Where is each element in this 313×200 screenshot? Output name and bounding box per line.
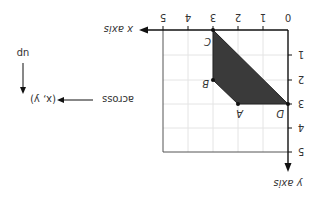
point-c-marker [211,28,215,32]
x-tick-5: 5 [160,12,166,23]
x-tick-2: 2 [235,12,241,23]
legend-up: up [17,48,30,59]
diagram: 0 1 2 3 4 5 x axis 1 2 3 4 5 y axis C B … [0,0,313,200]
up-arrow-icon [20,87,26,94]
y-tick-3: 3 [298,98,304,109]
point-b-label: B [202,78,209,89]
legend-across: across [102,94,134,105]
y-axis-label: y axis [273,178,303,189]
across-arrow-icon [57,97,64,103]
point-c-label: C [204,36,211,47]
x-axis-arrow-icon [139,27,148,34]
point-d-marker [286,102,290,106]
point-a-label: A [236,108,244,119]
quadrilateral-ABCD [213,30,288,104]
x-tick-3: 3 [210,12,216,23]
x-tick-0: 0 [285,12,291,23]
y-axis-arrow-icon [285,163,292,172]
x-tick-4: 4 [185,12,191,23]
y-tick-1: 1 [298,49,304,60]
point-a-marker [236,102,240,106]
y-tick-2: 2 [298,74,304,85]
x-axis-label: x axis [104,24,134,35]
legend-coordinate: (x, y) [30,94,56,105]
point-b-marker [211,78,215,82]
point-d-label: D [276,108,284,119]
coordinate-grid-rotated: 0 1 2 3 4 5 x axis 1 2 3 4 5 y axis C B … [0,0,313,200]
y-tick-5: 5 [298,146,304,157]
y-tick-4: 4 [298,122,304,133]
x-tick-1: 1 [260,12,266,23]
